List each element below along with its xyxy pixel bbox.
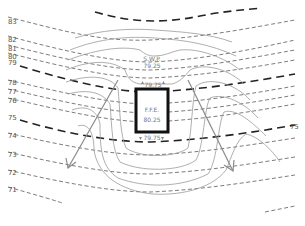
contour-label-79: 79 xyxy=(8,60,16,67)
contour-label-77: 77 xyxy=(8,89,16,96)
building-label: F.F.E. xyxy=(140,107,164,113)
existing-contour-71-right xyxy=(265,206,295,212)
index-contour-top xyxy=(95,8,262,21)
left-drainage-arrow xyxy=(68,80,118,168)
contour-label-82: 82 xyxy=(8,37,16,44)
existing-contour-72 xyxy=(8,170,295,192)
contour-label-72: 72 xyxy=(8,170,16,177)
contour-label-71: 71 xyxy=(8,187,16,194)
contour-label-75: 75 xyxy=(8,115,16,122)
swale-point-elevation: 79.25 xyxy=(140,63,164,69)
contour-plan-canvas xyxy=(0,0,305,226)
upper-door-elevation: 79.75 xyxy=(144,82,162,88)
contour-label-81: 81 xyxy=(8,46,16,53)
contour-label-78: 78 xyxy=(8,80,16,87)
right-drainage-arrow xyxy=(188,80,233,171)
contour-label-right-75: 75 xyxy=(290,124,298,131)
contour-label-73: 73 xyxy=(8,152,16,159)
building-ffe-elevation: 80.25 xyxy=(140,117,164,123)
lower-door-elevation: 79.75 xyxy=(142,135,162,141)
contour-label-83: 83 xyxy=(8,19,16,26)
contour-label-74: 74 xyxy=(8,133,16,140)
contour-label-76: 76 xyxy=(8,98,16,105)
upper-door-marker-right-icon xyxy=(162,81,165,84)
